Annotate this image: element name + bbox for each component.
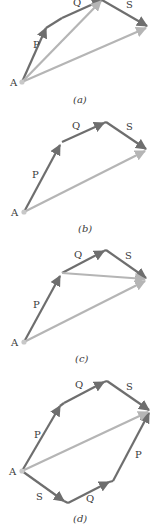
lower-label-q: Q (86, 493, 94, 504)
point-a (21, 339, 26, 344)
lower-vector-p (113, 413, 149, 481)
panel-b: A P Q S P + Q + S (b) (10, 120, 146, 234)
vector-s (102, 0, 147, 26)
vector-q (62, 0, 102, 18)
vector-addition-diagram: A P Q S P + Q P + Q + S (a) A P Q S P + … (0, 0, 161, 527)
label-p-plus-q: P + Q (60, 24, 85, 49)
point-label: A (10, 337, 19, 348)
label-p: P (33, 39, 40, 50)
label-s: S (126, 0, 133, 10)
caption: (a) (73, 94, 87, 105)
caption: (b) (78, 223, 92, 234)
point-a (19, 468, 24, 473)
point-a (19, 79, 24, 84)
caption: (d) (73, 513, 87, 524)
caption: (c) (75, 353, 89, 364)
vector-resultant (22, 412, 148, 471)
vector-q (62, 123, 104, 142)
panel-a: A P Q S P + Q P + Q + S (a) (9, 0, 147, 105)
label-p: P (33, 299, 40, 310)
point-a (21, 209, 26, 214)
vector-q (64, 382, 104, 403)
point-label: A (10, 207, 19, 218)
label-q: Q (74, 249, 82, 260)
panel-c: A P Q S Q + S P + Q + S (c) (10, 249, 146, 364)
panel-d: A P Q S S Q P P + Q + S = S + Q + P (d) (8, 379, 149, 524)
lower-label-s: S (36, 491, 43, 502)
lower-vector-s (22, 471, 64, 501)
vector-p-plus-q-plus-s (22, 28, 146, 82)
label-s: S (126, 121, 133, 132)
label-s: S (126, 381, 133, 392)
vector-p-plus-q-plus-s (24, 281, 145, 342)
label-p: P (32, 169, 39, 180)
point-label: A (9, 77, 18, 88)
vector-p-plus-q-plus-s (24, 151, 145, 212)
label-q: Q (72, 120, 80, 131)
label-q-plus-s: Q + S (88, 282, 113, 292)
vector-q (62, 251, 104, 273)
label-p: P (34, 429, 41, 440)
lower-label-p: P (135, 449, 142, 460)
point-label: A (8, 466, 17, 477)
label-q: Q (75, 379, 83, 390)
label-s: S (125, 250, 132, 261)
label-q: Q (73, 0, 81, 8)
vector-q-plus-s (62, 273, 145, 279)
